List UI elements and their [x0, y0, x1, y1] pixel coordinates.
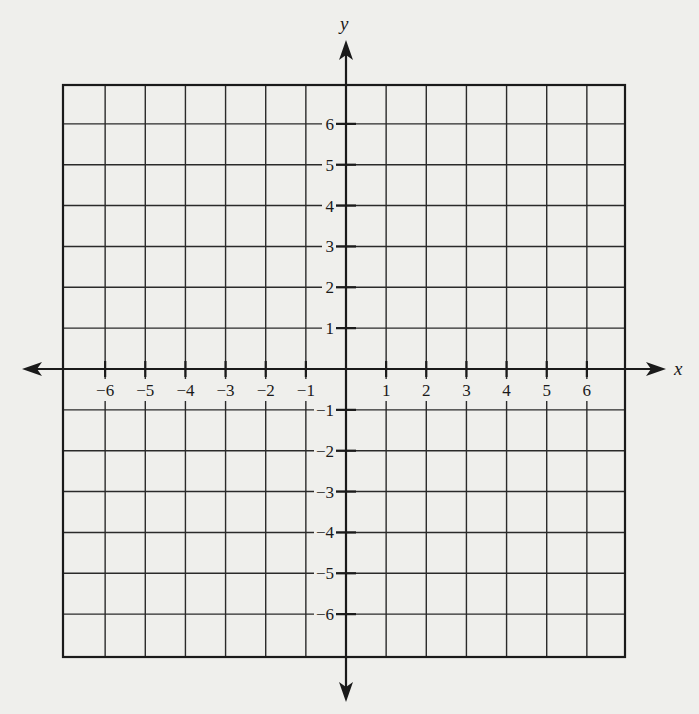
coordinate-plane-diagram: x −6−5−4−3−2−1123456 y 654321−1−2−3−4−5−…: [0, 0, 699, 714]
x-tick-label: −1: [297, 381, 315, 400]
grid: [63, 85, 625, 657]
grid-border: [63, 85, 625, 657]
y-tick-label: 2: [326, 278, 335, 297]
x-tick-label: 5: [542, 381, 551, 400]
coordinate-plane-svg: x −6−5−4−3−2−1123456 y 654321−1−2−3−4−5−…: [0, 0, 699, 714]
y-tick-label: −4: [316, 523, 335, 542]
x-tick-label: 1: [382, 381, 391, 400]
x-tick-label: −5: [136, 381, 154, 400]
x-tick-label: 3: [462, 381, 471, 400]
y-tick-label: 4: [326, 197, 335, 216]
y-tick-label: 5: [326, 156, 335, 175]
y-tick-label: −2: [316, 442, 334, 461]
x-tick-label: −2: [257, 381, 275, 400]
x-tick-label: 6: [583, 381, 592, 400]
x-tick-label: 2: [422, 381, 431, 400]
x-tick-label: −6: [96, 381, 114, 400]
y-axis: y 654321−1−2−3−4−5−6: [314, 13, 356, 702]
y-tick-label: 3: [326, 237, 335, 256]
y-axis-label: y: [338, 13, 349, 34]
y-tick-label: 1: [326, 319, 335, 338]
y-tick-label: −3: [316, 483, 334, 502]
y-tick-label: 6: [326, 115, 335, 134]
x-axis: x −6−5−4−3−2−1123456: [22, 358, 683, 401]
y-tick-label: −1: [316, 401, 334, 420]
x-tick-label: 4: [502, 381, 511, 400]
x-axis-label: x: [673, 358, 683, 379]
x-tick-label: −4: [176, 381, 195, 400]
y-tick-label: −6: [316, 605, 334, 624]
x-tick-label: −3: [217, 381, 235, 400]
y-tick-label: −5: [316, 564, 334, 583]
